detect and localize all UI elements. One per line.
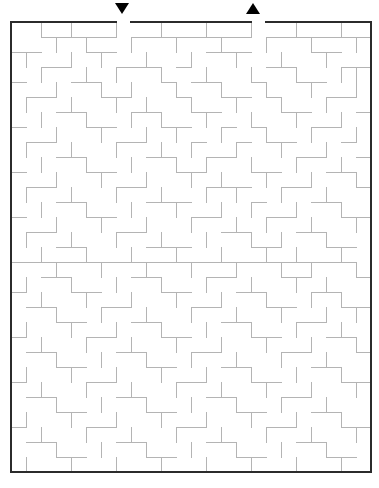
maze-page: entrance exit <box>0 0 379 488</box>
page-background <box>0 0 379 488</box>
maze-canvas <box>0 0 379 488</box>
